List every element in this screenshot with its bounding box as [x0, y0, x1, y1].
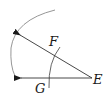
label-e: E [92, 72, 103, 87]
label-g: G [35, 81, 45, 95]
geometry-diagram: F G E [0, 0, 107, 95]
label-f: F [48, 34, 59, 49]
